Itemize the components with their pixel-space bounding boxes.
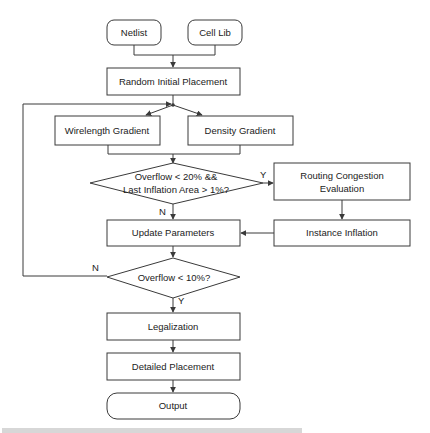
decision2-yes-label: Y xyxy=(178,295,185,306)
node-decision-overflow-20: Overflow < 20% && Last Inflation Area > … xyxy=(90,163,263,204)
node-wirelength-gradient-label: Wirelength Gradient xyxy=(65,125,150,136)
node-density-gradient: Density Gradient xyxy=(188,116,293,145)
node-instance-inflation: Instance Inflation xyxy=(274,220,410,246)
node-wirelength-gradient: Wirelength Gradient xyxy=(55,116,160,145)
node-density-gradient-label: Density Gradient xyxy=(205,125,276,136)
node-output: Output xyxy=(107,393,240,419)
node-decision-overflow-10: Overflow < 10%? xyxy=(107,258,240,298)
decision1-no-label: N xyxy=(159,206,166,217)
node-detailed-placement-label: Detailed Placement xyxy=(132,361,215,372)
node-update-parameters: Update Parameters xyxy=(107,220,240,246)
node-cell-lib: Cell Lib xyxy=(188,20,242,45)
placement-flowchart: Netlist Cell Lib Random Initial Placemen… xyxy=(0,0,430,433)
decision2-label: Overflow < 10%? xyxy=(138,272,211,283)
node-random-initial-placement-label: Random Initial Placement xyxy=(119,76,228,87)
decision1-yes-label: Y xyxy=(260,169,267,180)
decision2-no-label: N xyxy=(92,262,99,273)
caption-cutoff xyxy=(2,428,302,433)
edge-gradients-merge xyxy=(108,145,240,154)
node-detailed-placement: Detailed Placement xyxy=(107,353,240,380)
edge-netlist-merge xyxy=(134,45,215,55)
node-instance-inflation-label: Instance Inflation xyxy=(306,227,378,238)
node-routing-congestion-evaluation: Routing Congestion Evaluation xyxy=(274,163,410,200)
node-netlist: Netlist xyxy=(107,20,161,45)
routing-congestion-line2: Evaluation xyxy=(320,183,364,194)
routing-congestion-line1: Routing Congestion xyxy=(300,170,383,181)
edge-junction-to-density xyxy=(173,105,202,115)
node-random-initial-placement: Random Initial Placement xyxy=(107,68,240,95)
node-legalization-label: Legalization xyxy=(148,321,199,332)
node-output-label: Output xyxy=(159,400,188,411)
node-cell-lib-label: Cell Lib xyxy=(199,27,231,38)
node-netlist-label: Netlist xyxy=(121,27,148,38)
node-legalization: Legalization xyxy=(107,313,240,340)
node-update-parameters-label: Update Parameters xyxy=(132,227,215,238)
decision1-line1: Overflow < 20% && xyxy=(135,171,218,182)
decision1-line2: Last Inflation Area > 1%? xyxy=(123,184,229,195)
edge-junction-to-wirelength xyxy=(146,105,173,115)
